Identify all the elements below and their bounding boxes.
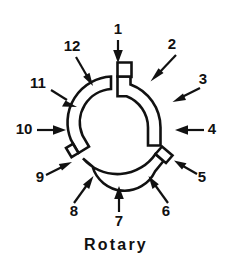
callout-label-8: 8 (70, 202, 78, 219)
callout-label-11: 11 (30, 74, 46, 91)
callout-arrow-1 (113, 40, 123, 63)
callout-label-5: 5 (198, 168, 206, 185)
callout-label-4: 4 (208, 120, 217, 137)
callout-label-7: 7 (115, 212, 123, 229)
callout-arrow-6 (149, 176, 169, 203)
callout-arrow-9 (46, 162, 72, 175)
ring-segment-right (118, 77, 161, 146)
callout-arrow-2 (151, 55, 177, 82)
figure-caption: Rotary (84, 236, 148, 253)
callout-label-3: 3 (199, 70, 207, 87)
callout-label-1: 1 (114, 20, 122, 37)
diagram-canvas: 1 2 3 4 5 6 7 8 9 10 11 12 Rotary (0, 0, 229, 260)
callout-label-12: 12 (64, 37, 81, 54)
callout-arrow-4 (175, 125, 204, 135)
callout-arrow-3 (173, 88, 201, 102)
rotary-ring-part (66, 63, 173, 191)
callout-label-9: 9 (36, 168, 44, 185)
callout-arrow-8 (74, 176, 94, 203)
ring-segment-left (68, 77, 111, 154)
callout-label-10: 10 (16, 120, 33, 137)
ring-top-key-tab (118, 63, 132, 78)
callout-arrow-10 (37, 125, 66, 135)
callout-label-2: 2 (168, 35, 176, 52)
callout-label-6: 6 (162, 202, 170, 219)
callout-arrow-12 (76, 57, 93, 86)
callout-arrow-5 (174, 161, 197, 175)
rotary-part-diagram: 1 2 3 4 5 6 7 8 9 10 11 12 Rotary (0, 0, 229, 260)
